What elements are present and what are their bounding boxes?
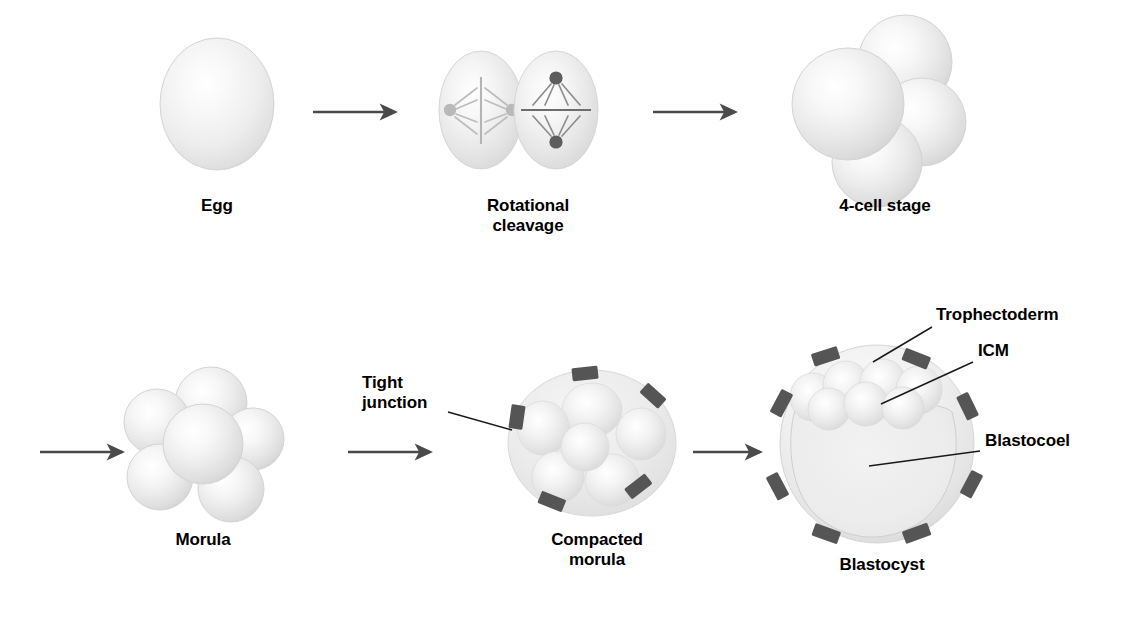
tight-junction-block <box>571 366 598 382</box>
embryo-development-figure: Egg Rotational cleavage 4-cell stage Mor… <box>0 0 1146 618</box>
stage-label-blastocyst: Blastocyst <box>807 555 957 575</box>
callout-label-tight-junction: Tight junction <box>362 373 472 413</box>
compacted-morula-illustration <box>508 366 676 516</box>
stage-label-rotational-cleavage: Rotational cleavage <box>448 196 608 236</box>
four-cell-stage-illustration <box>792 15 966 207</box>
centrosome-right-a <box>549 71 562 84</box>
centrosome-left-a <box>444 104 456 116</box>
egg-sphere <box>160 38 274 170</box>
stage-label-compacted-morula: Compacted morula <box>522 530 672 570</box>
stage-label-four-cell-stage: 4-cell stage <box>795 196 975 216</box>
four-cell-blastomere-front-left <box>792 48 904 160</box>
compacted-cell-center <box>561 423 609 471</box>
stage-label-morula: Morula <box>143 530 263 550</box>
centrosome-right-b <box>549 135 562 148</box>
stage-label-egg: Egg <box>157 196 277 216</box>
compacted-cell-right <box>616 408 666 460</box>
morula-illustration <box>124 367 284 522</box>
callout-label-blastocoel: Blastocoel <box>985 431 1135 451</box>
leader-line-tight-junction <box>448 412 512 430</box>
callout-label-icm: ICM <box>978 341 1048 361</box>
morula-cell-center-front <box>163 404 243 484</box>
rotational-cleavage-illustration <box>439 51 598 169</box>
blastomere-right <box>514 51 598 169</box>
icm-cell <box>808 388 850 430</box>
blastomere-left <box>439 51 523 169</box>
blastocyst-illustration <box>766 345 984 544</box>
callout-label-trophectoderm: Trophectoderm <box>936 305 1142 325</box>
egg-cell-illustration <box>160 38 274 170</box>
